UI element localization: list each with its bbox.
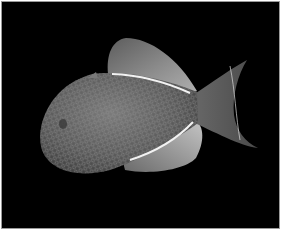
- fish-illustration: [2, 2, 279, 228]
- photo-frame: [0, 0, 286, 240]
- photo: [2, 2, 279, 228]
- fish-eye: [59, 119, 67, 129]
